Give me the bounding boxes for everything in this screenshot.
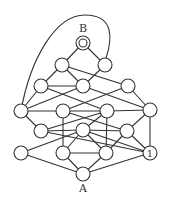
node-r2 [56, 104, 70, 118]
node-label: 1 [147, 148, 153, 159]
node-circle [120, 124, 134, 138]
node-circle [121, 79, 135, 93]
node-t2 [56, 146, 70, 160]
nodes-group: 1 [14, 36, 157, 181]
node-circle [143, 103, 157, 117]
node-inner-circle [79, 39, 87, 47]
node-circle [56, 146, 70, 160]
node-circle [99, 146, 113, 160]
label-a: A [78, 182, 88, 195]
node-circle [100, 104, 114, 118]
node-circle [56, 104, 70, 118]
graph-diagram: 1 B A [0, 0, 170, 204]
node-s2 [76, 123, 90, 137]
node-circle [98, 58, 112, 72]
node-circle [76, 79, 90, 93]
label-b: B [79, 22, 87, 35]
node-circle [14, 104, 28, 118]
node-t3 [99, 146, 113, 160]
node-s1 [34, 124, 48, 138]
node-a [76, 167, 90, 181]
node-circle [14, 146, 28, 160]
node-circle [34, 124, 48, 138]
node-q3 [121, 79, 135, 93]
node-p2 [98, 58, 112, 72]
node-circle [76, 167, 90, 181]
node-t1 [14, 146, 28, 160]
node-t4: 1 [143, 146, 157, 160]
edges-group [21, 43, 150, 174]
node-p1 [55, 58, 69, 72]
node-q2 [76, 79, 90, 93]
node-circle [34, 79, 48, 93]
node-circle [76, 123, 90, 137]
node-b [76, 36, 90, 50]
node-s3 [120, 124, 134, 138]
edge-t4-a [83, 153, 150, 174]
edge-q2-r4 [83, 86, 150, 110]
node-circle [55, 58, 69, 72]
node-q1 [34, 79, 48, 93]
node-r1 [14, 104, 28, 118]
node-r4 [143, 103, 157, 117]
node-r3 [100, 104, 114, 118]
